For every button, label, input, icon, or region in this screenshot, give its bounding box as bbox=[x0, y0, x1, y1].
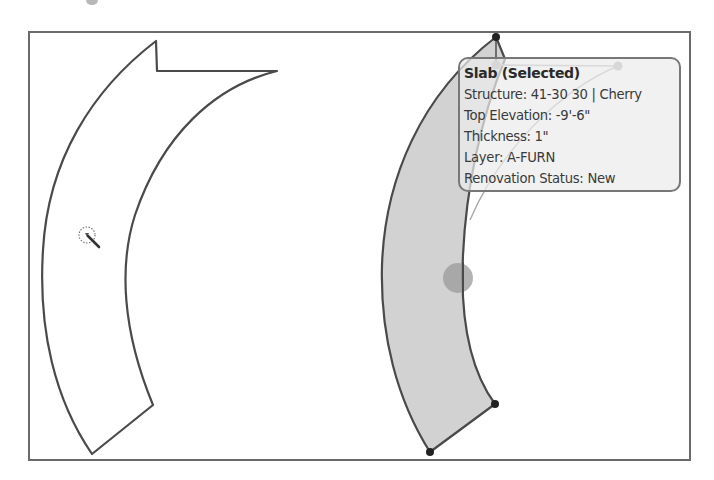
selection-info-tooltip: Slab (Selected) Structure: 41-30 30 | Ch… bbox=[458, 57, 681, 192]
tooltip-structure: Structure: 41-30 30 | Cherry bbox=[464, 84, 679, 105]
tooltip-thickness: Thickness: 1" bbox=[464, 126, 679, 147]
vertex-grip-bottom-left[interactable] bbox=[426, 448, 434, 456]
tooltip-title: Slab (Selected) bbox=[464, 63, 679, 84]
tooltip-layer: Layer: A-FURN bbox=[464, 147, 679, 168]
tooltip-renovation-status: Renovation Status: New bbox=[464, 168, 679, 189]
drawing-canvas[interactable]: Slab (Selected) Structure: 41-30 30 | Ch… bbox=[0, 0, 714, 480]
vertex-grip-bottom-right[interactable] bbox=[491, 400, 499, 408]
magic-wand-cursor-icon bbox=[76, 224, 106, 254]
edge-midpoint-grip[interactable] bbox=[443, 263, 473, 293]
tooltip-top-elevation: Top Elevation: -9'-6" bbox=[464, 105, 679, 126]
vertex-grip-top[interactable] bbox=[492, 33, 500, 41]
